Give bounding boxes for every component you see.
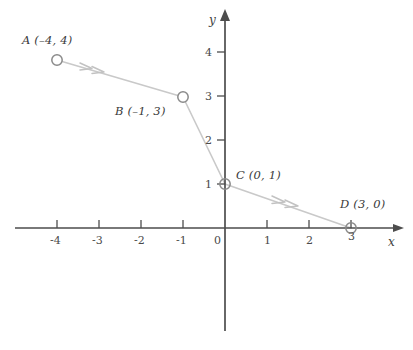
x-tick-label-3: 3	[348, 231, 355, 242]
x-tick-label--2: -2	[134, 235, 145, 246]
y-axis-ticks	[217, 52, 225, 184]
y-axis-arrowhead	[220, 9, 230, 21]
x-tick-label--1: -1	[176, 235, 187, 246]
point-path-polyline	[57, 60, 351, 228]
y-tick-label-3: 3	[205, 91, 212, 102]
coordinate-plane-figure: -4 -3 -2 -1 0 1 2 3 1 2 3 4 x y A (–4, 4…	[0, 0, 413, 350]
x-axis-arrowhead	[393, 224, 404, 232]
point-marker-a[interactable]	[52, 55, 62, 65]
y-axis-label: y	[209, 14, 216, 26]
x-axis-label: x	[388, 236, 395, 248]
x-tick-label-1: 1	[264, 235, 271, 246]
x-tick-label--3: -3	[92, 235, 103, 246]
x-tick-label-0: 0	[214, 235, 221, 246]
x-axis-ticks	[57, 220, 351, 228]
polyline-abcd	[57, 60, 351, 228]
x-tick-label--4: -4	[50, 235, 61, 246]
y-tick-label-4: 4	[205, 47, 212, 58]
y-tick-label-1: 1	[205, 179, 212, 190]
point-label-d: D (3, 0)	[340, 199, 385, 211]
point-label-a: A (–4, 4)	[22, 35, 72, 47]
y-tick-label-2: 2	[205, 135, 212, 146]
point-label-b: B (–1, 3)	[115, 106, 166, 118]
point-label-c: C (0, 1)	[236, 170, 281, 182]
x-tick-label-2: 2	[306, 235, 313, 246]
point-marker-b[interactable]	[178, 92, 188, 102]
plotted-points	[52, 55, 356, 233]
